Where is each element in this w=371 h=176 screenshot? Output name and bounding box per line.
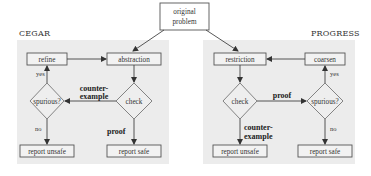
svg-text:check: check [126,98,143,106]
svg-text:coarsen: coarsen [314,56,336,64]
svg-text:restriction: restriction [225,56,255,64]
progress-counterexample-label-2: example [244,132,273,141]
svg-text:report unsafe: report unsafe [221,148,259,156]
progress-counterexample-label-1: counter- [244,123,273,132]
cegar-report-unsafe-node: report unsafe [20,145,74,157]
svg-text:spurious?: spurious? [33,98,61,106]
progress-report-unsafe-node: report unsafe [213,145,267,157]
edge-original-to-abstraction [133,30,164,51]
progress-proof-label: proof [273,91,292,100]
cegar-abstraction-node: abstraction [107,53,161,65]
svg-text:check: check [232,98,249,106]
progress-check-decision: check [223,83,257,119]
svg-text:spurious?: spurious? [311,98,339,106]
original-problem-line1: original [173,8,195,16]
progress-coarsen-node: coarsen [305,53,345,65]
original-problem-line2: problem [173,18,197,26]
progress-report-safe-node: report safe [298,145,352,157]
cegar-check-decision: check [116,83,152,119]
svg-text:report safe: report safe [119,148,150,156]
progress-no-label: no [330,125,337,132]
original-problem-node: original problem [160,3,209,30]
progress-restriction-node: restriction [214,53,266,65]
cegar-counterexample-label-2: example [80,92,109,101]
progress-spurious-decision: spurious? [307,83,343,119]
cegar-proof-label: proof [107,127,126,136]
svg-text:abstraction: abstraction [118,56,150,64]
edge-original-to-restriction [206,30,238,51]
progress-yes-label: yes [330,70,339,77]
svg-text:refine: refine [39,56,56,64]
flowchart-svg: original problem refine abstraction spur… [0,0,371,176]
cegar-report-safe-node: report safe [107,145,161,157]
cegar-spurious-decision: spurious? [30,83,64,119]
svg-text:report safe: report safe [310,148,341,156]
cegar-no-label: no [35,125,42,132]
diagram-canvas: CEGAR PROGRESS original problem refine a… [0,0,371,176]
cegar-yes-label: yes [36,70,45,77]
svg-text:report unsafe: report unsafe [28,148,66,156]
cegar-refine-node: refine [27,53,67,65]
